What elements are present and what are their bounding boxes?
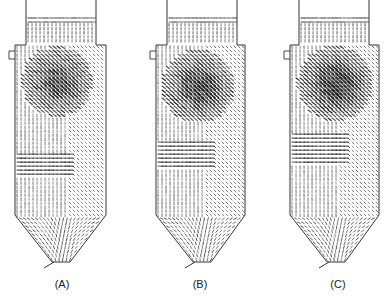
panel-label-c: (C) <box>318 277 358 291</box>
vessel-c-vector-plot <box>275 0 392 275</box>
vector-field-figure: (A) (B) (C) <box>0 0 392 301</box>
vessel-a-vector-plot <box>0 0 125 275</box>
panel-label-a: (A) <box>42 277 82 291</box>
panel-label-b: (B) <box>180 277 220 291</box>
vessel-b-vector-plot <box>141 0 266 275</box>
